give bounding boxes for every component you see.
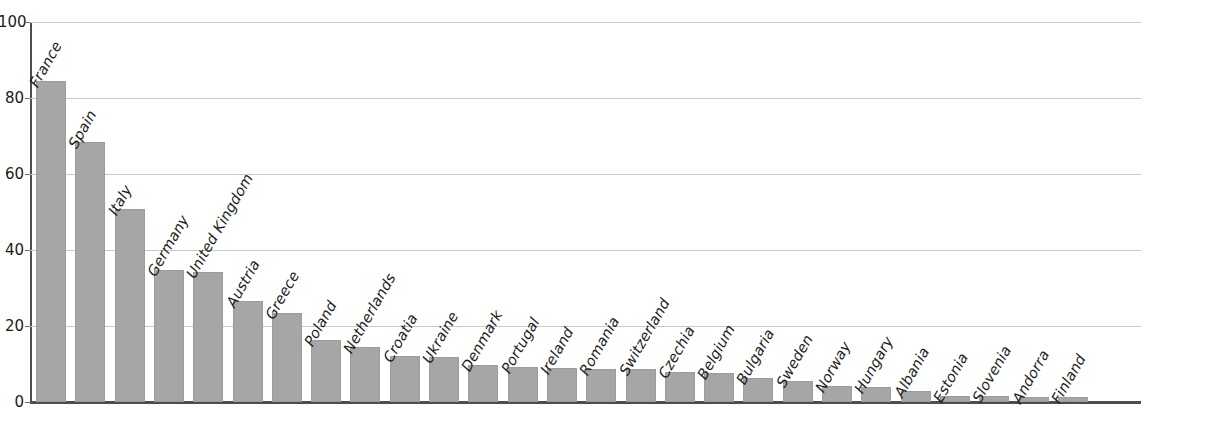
bar[interactable]	[311, 340, 341, 402]
bar[interactable]	[154, 270, 184, 402]
gridline-60	[30, 174, 1141, 175]
bar[interactable]	[193, 272, 223, 402]
bar[interactable]	[272, 313, 302, 402]
plot-area	[30, 22, 1141, 402]
bar[interactable]	[350, 347, 380, 402]
y-axis-tick-label-0: 0	[0, 393, 24, 411]
y-axis-tick-label-60: 60	[0, 165, 24, 183]
bar[interactable]	[36, 81, 66, 402]
bar[interactable]	[75, 142, 105, 402]
y-axis-tick-label-20: 20	[0, 317, 24, 335]
gridline-80	[30, 98, 1141, 99]
gridline-100	[30, 22, 1141, 23]
y-axis-tick-mark-0	[25, 402, 31, 403]
bar[interactable]	[115, 209, 145, 402]
bar-chart: 020406080100 FranceSpainItalyGermanyUnit…	[0, 0, 1209, 445]
y-axis-tick-label-40: 40	[0, 241, 24, 259]
bar[interactable]	[233, 301, 263, 402]
y-axis-tick-label-80: 80	[0, 89, 24, 107]
y-axis-tick-label-100: 100	[0, 13, 24, 31]
